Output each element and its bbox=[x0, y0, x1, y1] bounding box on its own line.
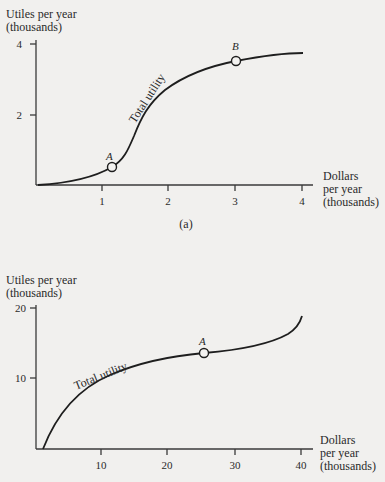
x-tick-label: 30 bbox=[230, 459, 242, 471]
point-b-label: B bbox=[232, 40, 239, 52]
x-tick-label: 10 bbox=[96, 459, 108, 471]
y-tick-label: 10 bbox=[15, 372, 27, 384]
x-tick-label: 40 bbox=[296, 459, 308, 471]
point-b-marker bbox=[232, 57, 241, 66]
x-tick-label: 1 bbox=[99, 195, 105, 207]
x-tick-label: 3 bbox=[232, 195, 238, 207]
chart-b: Utiles per year (thousands) 20 10 10 20 … bbox=[6, 273, 376, 473]
y-tick-label: 4 bbox=[17, 38, 23, 50]
x-axis-label-line3: (thousands) bbox=[320, 459, 376, 473]
point-a-marker bbox=[200, 349, 209, 358]
curve-label: Total utility bbox=[72, 359, 129, 393]
y-axis-label-line1: Utiles per year bbox=[6, 7, 77, 21]
chart-a: Utiles per year (thousands) 4 2 1 2 3 4 … bbox=[6, 7, 379, 231]
point-a-label: A bbox=[198, 335, 206, 347]
y-tick-label: 2 bbox=[17, 109, 23, 121]
x-axis-label-line1: Dollars bbox=[323, 169, 359, 183]
x-axis-label-line2: per year bbox=[323, 182, 362, 196]
curve-label: Total utility bbox=[126, 71, 168, 126]
total-utility-curve bbox=[38, 53, 303, 185]
x-tick-label: 2 bbox=[165, 195, 171, 207]
point-a-label: A bbox=[105, 150, 113, 162]
point-a-marker bbox=[108, 163, 117, 172]
panel-label: (a) bbox=[179, 217, 192, 231]
x-axis-label-line3: (thousands) bbox=[323, 195, 379, 209]
x-tick-label: 4 bbox=[299, 195, 305, 207]
figure: Utiles per year (thousands) 4 2 1 2 3 4 … bbox=[0, 0, 385, 482]
x-axis-label-line1: Dollars bbox=[320, 433, 356, 447]
y-axis-label-line2: (thousands) bbox=[6, 20, 62, 34]
y-axis-label-line1: Utiles per year bbox=[6, 273, 77, 287]
x-axis-label-line2: per year bbox=[320, 446, 359, 460]
y-axis-label-line2: (thousands) bbox=[6, 286, 62, 300]
x-tick-label: 20 bbox=[162, 459, 174, 471]
y-tick-label: 20 bbox=[15, 302, 27, 314]
